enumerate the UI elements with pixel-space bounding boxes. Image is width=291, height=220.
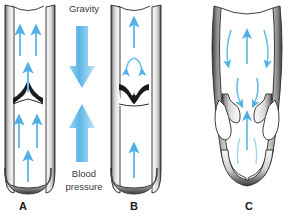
vein-valve-diagram: Gravity Blood pressure A B C bbox=[0, 0, 291, 220]
panel-label-a: A bbox=[19, 200, 27, 212]
vein-b-wall-left bbox=[111, 5, 120, 193]
blood-pressure-label-line2: pressure bbox=[48, 181, 120, 192]
vein-a-wall-left bbox=[5, 5, 14, 193]
panel-a-vein bbox=[5, 5, 55, 194]
diagram-canvas bbox=[0, 0, 291, 220]
panel-label-b: B bbox=[130, 200, 138, 212]
gravity-label: Gravity bbox=[57, 3, 111, 14]
blood-pressure-label-line1: Blood bbox=[55, 168, 113, 179]
vein-a-wall-right bbox=[46, 5, 55, 193]
panel-label-c: C bbox=[245, 200, 253, 212]
panel-c-vein bbox=[212, 6, 282, 186]
vein-b-wall-right bbox=[152, 5, 161, 193]
panel-b-vein bbox=[111, 5, 161, 194]
